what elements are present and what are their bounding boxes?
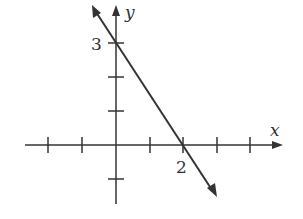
- graph: y x 3 2: [0, 0, 303, 219]
- graph-line: [96, 12, 212, 190]
- x-intercept-label: 2: [176, 157, 187, 177]
- x-axis-arrow-icon: [272, 141, 283, 149]
- y-axis-arrow-icon: [112, 5, 120, 16]
- x-axis-label: x: [270, 120, 280, 140]
- y-axis-label: y: [124, 2, 135, 22]
- coordinate-plane: y x 3 2: [0, 0, 303, 219]
- y-intercept-label: 3: [91, 34, 102, 54]
